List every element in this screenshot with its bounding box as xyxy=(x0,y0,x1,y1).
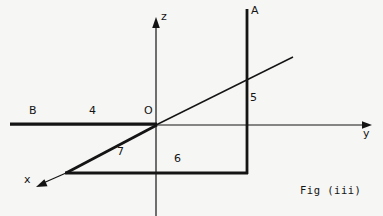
point-label-o: O xyxy=(144,105,153,116)
dimension-label-7: 7 xyxy=(117,146,124,157)
x-axis-arrowhead xyxy=(36,179,48,187)
dimension-label-6: 6 xyxy=(174,153,181,164)
axis-label-x: x xyxy=(24,174,31,185)
z-axis-arrowhead xyxy=(152,17,160,28)
figure-canvas: z y x O A B 4 5 6 7 Fig (iii) xyxy=(0,0,383,216)
axis-label-z: z xyxy=(161,11,167,22)
axis-label-y: y xyxy=(363,128,370,139)
dimension-label-5: 5 xyxy=(250,92,257,103)
figure-caption: Fig (iii) xyxy=(300,185,361,196)
point-label-a: A xyxy=(251,5,259,16)
dimension-label-4: 4 xyxy=(89,105,96,116)
segment-O-to-bend xyxy=(66,125,157,173)
oblique-projection-line xyxy=(156,57,293,125)
point-label-b: B xyxy=(29,105,37,116)
